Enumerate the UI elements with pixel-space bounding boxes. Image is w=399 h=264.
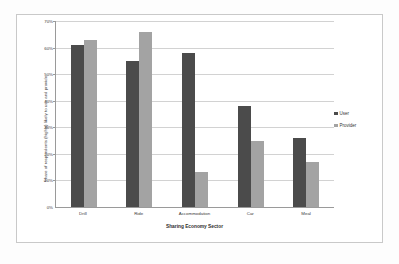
y-axis-tick-label: 40%	[31, 98, 53, 103]
x-axis-tick-label: Drill	[55, 211, 111, 223]
bar-provider-car	[251, 141, 264, 207]
bar-group	[238, 21, 264, 207]
bar-user-meal	[293, 138, 306, 207]
y-axis-tick-label: 20%	[31, 151, 53, 156]
x-axis-tick-label: Car	[222, 211, 278, 223]
x-axis-tick-label: Meal	[278, 211, 334, 223]
chart-frame: Share of respondents (highly) likely to …	[16, 14, 383, 243]
y-axis-tick-label: 30%	[31, 125, 53, 130]
page-background: Share of respondents (highly) likely to …	[0, 0, 399, 264]
legend-item-label: Provider	[340, 123, 357, 128]
legend-item-user: User	[334, 111, 376, 116]
y-axis-tick-labels: 0%10%20%30%40%50%60%70%	[31, 21, 53, 207]
x-axis-tick-labels: DrillRideAccommodationCarMeal	[55, 211, 334, 223]
bar-group	[126, 21, 152, 207]
x-axis-tick-label: Ride	[111, 211, 167, 223]
legend-swatch-icon	[334, 112, 338, 116]
bar-group	[71, 21, 97, 207]
bar-user-car	[238, 106, 251, 207]
legend-swatch-icon	[334, 124, 338, 128]
plot-wrapper: Share of respondents (highly) likely to …	[17, 15, 382, 242]
bar-user-drill	[71, 45, 84, 207]
y-axis-tick-label: 10%	[31, 178, 53, 183]
legend-item-label: User	[340, 111, 350, 116]
bar-group	[293, 21, 319, 207]
bar-groups	[56, 21, 334, 207]
y-axis-tick-label: 50%	[31, 72, 53, 77]
legend: UserProvider	[334, 111, 376, 135]
bar-provider-meal	[306, 162, 319, 207]
bar-provider-ride	[139, 32, 152, 207]
bar-user-accommodation	[182, 53, 195, 207]
plot-area	[55, 21, 334, 208]
x-axis-tick-label: Accommodation	[167, 211, 223, 223]
y-axis-tick-label: 0%	[31, 205, 53, 210]
y-axis-tick-label: 60%	[31, 45, 53, 50]
bar-provider-drill	[84, 40, 97, 207]
y-axis-tick-label: 70%	[31, 19, 53, 24]
bar-group	[182, 21, 208, 207]
bar-provider-accommodation	[195, 172, 208, 207]
x-axis-title: Sharing Economy Sector	[55, 224, 334, 229]
bar-user-ride	[126, 61, 139, 207]
legend-item-provider: Provider	[334, 123, 376, 128]
